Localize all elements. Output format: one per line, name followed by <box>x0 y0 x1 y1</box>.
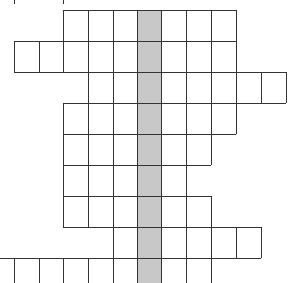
grid-cell[interactable] <box>161 134 186 165</box>
grid-cell[interactable] <box>137 165 161 196</box>
grid-cell[interactable] <box>113 10 137 41</box>
grid-row <box>63 10 237 42</box>
grid-cell[interactable] <box>211 41 236 72</box>
grid-cell[interactable] <box>236 72 261 103</box>
grid-cell[interactable] <box>161 103 186 134</box>
grid-cell[interactable] <box>186 103 211 134</box>
grid-cell[interactable] <box>88 134 113 165</box>
grid-cell[interactable] <box>113 227 137 258</box>
grid-cell[interactable] <box>137 72 161 103</box>
grid-cell[interactable] <box>113 258 137 283</box>
grid-row <box>63 134 212 166</box>
grid-cell[interactable] <box>137 41 161 72</box>
grid-cell[interactable] <box>63 196 88 227</box>
grid-cell[interactable] <box>137 103 161 134</box>
grid-cell[interactable] <box>161 10 186 41</box>
grid-cell[interactable] <box>88 165 113 196</box>
grid-cell[interactable] <box>113 41 137 72</box>
grid-cell[interactable] <box>63 165 88 196</box>
grid-row <box>63 196 212 228</box>
grid-cell[interactable] <box>137 10 161 41</box>
grid-cell[interactable] <box>63 41 88 72</box>
grid-cell[interactable] <box>88 258 113 283</box>
grid-cell[interactable] <box>88 10 113 41</box>
grid-cell[interactable] <box>88 196 113 227</box>
grid-cell[interactable] <box>137 258 161 283</box>
crossword-grid <box>0 0 291 283</box>
grid-cell[interactable] <box>186 10 211 41</box>
grid-cell[interactable] <box>186 227 211 258</box>
grid-row <box>113 227 262 259</box>
grid-cell[interactable] <box>88 103 113 134</box>
grid-cell[interactable] <box>211 10 236 41</box>
grid-cell[interactable] <box>88 41 113 72</box>
grid-cell[interactable] <box>88 72 113 103</box>
grid-cell[interactable] <box>137 227 161 258</box>
grid-cell[interactable] <box>236 227 261 258</box>
grid-cell[interactable] <box>63 103 88 134</box>
grid-cell[interactable] <box>186 258 211 283</box>
grid-cell[interactable] <box>0 258 14 283</box>
grid-cell[interactable] <box>211 103 236 134</box>
grid-cell[interactable] <box>137 134 161 165</box>
grid-cell[interactable] <box>113 134 137 165</box>
grid-cell[interactable] <box>14 41 39 72</box>
grid-cell[interactable] <box>161 196 186 227</box>
grid-cell[interactable] <box>113 165 137 196</box>
grid-row <box>63 103 237 135</box>
grid-cell[interactable] <box>186 196 211 227</box>
grid-row <box>88 72 287 104</box>
grid-cell[interactable] <box>137 196 161 227</box>
grid-row <box>63 165 187 197</box>
grid-cell[interactable] <box>161 258 186 283</box>
grid-cell[interactable] <box>211 227 236 258</box>
grid-cell[interactable] <box>161 72 186 103</box>
grid-cell[interactable] <box>186 134 211 165</box>
grid-cell[interactable] <box>161 165 186 196</box>
grid-cell[interactable] <box>39 41 63 72</box>
grid-cell[interactable] <box>211 72 236 103</box>
grid-cell[interactable] <box>113 72 137 103</box>
grid-cell[interactable] <box>113 196 137 227</box>
grid-cell[interactable] <box>186 72 211 103</box>
grid-cell[interactable] <box>39 258 63 283</box>
grid-cell[interactable] <box>186 41 211 72</box>
grid-cell[interactable] <box>261 72 286 103</box>
grid-cell[interactable] <box>161 41 186 72</box>
grid-cell[interactable] <box>63 134 88 165</box>
grid-cell[interactable] <box>113 103 137 134</box>
grid-cell[interactable] <box>63 258 88 283</box>
grid-cell[interactable] <box>14 258 39 283</box>
grid-cell[interactable] <box>63 10 88 41</box>
grid-row <box>14 41 237 73</box>
grid-cell[interactable] <box>161 227 186 258</box>
grid-row <box>0 258 212 283</box>
